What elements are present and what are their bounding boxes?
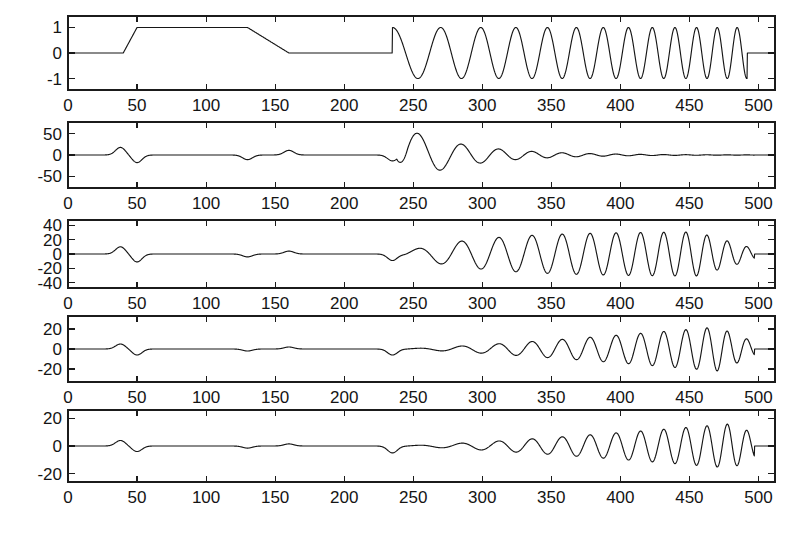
plot-panel: 050100150200250300350400450500500-50 <box>0 118 804 218</box>
y-tick-label: 20 <box>43 409 62 428</box>
x-tick-label: 0 <box>63 194 72 213</box>
panel-canvas-0: 05010015020025030035040045050010-1 <box>0 12 804 120</box>
x-tick-label: 250 <box>399 488 427 507</box>
y-tick-label: 0 <box>53 437 62 456</box>
x-tick-label: 450 <box>675 388 703 407</box>
panel-canvas-3: 050100150200250300350400450500200-20 <box>0 312 804 412</box>
x-tick-label: 300 <box>468 294 496 313</box>
x-tick-label: 500 <box>744 488 772 507</box>
x-tick-label: 100 <box>192 96 220 115</box>
y-tick-label: 1 <box>53 18 62 37</box>
x-tick-label: 0 <box>63 96 72 115</box>
x-tick-label: 250 <box>399 96 427 115</box>
y-tick-label: -1 <box>47 70 62 89</box>
x-tick-label: 450 <box>675 488 703 507</box>
x-tick-label: 350 <box>537 194 565 213</box>
x-tick-label: 500 <box>744 294 772 313</box>
y-tick-label: 50 <box>43 125 62 144</box>
x-tick-label: 0 <box>63 488 72 507</box>
x-tick-label: 300 <box>468 194 496 213</box>
x-tick-label: 400 <box>606 194 634 213</box>
x-tick-label: 350 <box>537 96 565 115</box>
y-tick-label: -40 <box>37 274 62 293</box>
x-tick-label: 500 <box>744 388 772 407</box>
y-tick-label: -20 <box>37 465 62 484</box>
x-tick-label: 500 <box>744 96 772 115</box>
x-tick-label: 200 <box>330 96 358 115</box>
x-tick-label: 100 <box>192 194 220 213</box>
y-tick-label: 0 <box>53 146 62 165</box>
y-tick-label: 0 <box>53 44 62 63</box>
x-tick-label: 150 <box>261 194 289 213</box>
panel-canvas-4: 050100150200250300350400450500200-20 <box>0 406 804 524</box>
x-tick-label: 50 <box>128 96 147 115</box>
x-tick-label: 200 <box>330 194 358 213</box>
signal-trace <box>68 328 775 371</box>
x-tick-label: 0 <box>63 388 72 407</box>
plot-panel: 050100150200250300350400450500200-20 <box>0 406 804 524</box>
x-tick-label: 300 <box>468 388 496 407</box>
signal-trace <box>68 133 775 170</box>
y-tick-label: -20 <box>37 360 62 379</box>
x-tick-label: 400 <box>606 488 634 507</box>
panel-canvas-2: 05010015020025030035040045050040200-20-4… <box>0 216 804 318</box>
x-tick-label: 200 <box>330 488 358 507</box>
x-tick-label: 450 <box>675 194 703 213</box>
x-tick-label: 100 <box>192 294 220 313</box>
x-tick-label: 50 <box>128 488 147 507</box>
x-tick-label: 150 <box>261 488 289 507</box>
plot-panel: 05010015020025030035040045050040200-20-4… <box>0 216 804 318</box>
x-tick-label: 50 <box>128 294 147 313</box>
x-tick-label: 400 <box>606 294 634 313</box>
x-tick-label: 150 <box>261 96 289 115</box>
panel-canvas-1: 050100150200250300350400450500500-50 <box>0 118 804 218</box>
x-tick-label: 400 <box>606 388 634 407</box>
x-tick-label: 450 <box>675 294 703 313</box>
y-tick-label: -50 <box>37 167 62 186</box>
signal-decomposition-figure: 05010015020025030035040045050010-1 05010… <box>0 0 804 533</box>
signal-trace <box>68 27 775 78</box>
x-tick-label: 350 <box>537 488 565 507</box>
x-tick-label: 50 <box>128 388 147 407</box>
x-tick-label: 50 <box>128 194 147 213</box>
y-tick-label: 20 <box>43 320 62 339</box>
x-tick-label: 150 <box>261 294 289 313</box>
x-tick-label: 400 <box>606 96 634 115</box>
plot-panel: 05010015020025030035040045050010-1 <box>0 12 804 120</box>
x-tick-label: 350 <box>537 388 565 407</box>
x-tick-label: 250 <box>399 294 427 313</box>
x-tick-label: 300 <box>468 96 496 115</box>
x-tick-label: 500 <box>744 194 772 213</box>
x-tick-label: 100 <box>192 488 220 507</box>
x-tick-label: 300 <box>468 488 496 507</box>
x-tick-label: 200 <box>330 388 358 407</box>
x-tick-label: 200 <box>330 294 358 313</box>
x-tick-label: 250 <box>399 194 427 213</box>
x-tick-label: 350 <box>537 294 565 313</box>
signal-trace <box>68 424 775 467</box>
x-tick-label: 150 <box>261 388 289 407</box>
x-tick-label: 250 <box>399 388 427 407</box>
y-tick-label: 0 <box>53 340 62 359</box>
x-tick-label: 100 <box>192 388 220 407</box>
x-tick-label: 0 <box>63 294 72 313</box>
plot-panel: 050100150200250300350400450500200-20 <box>0 312 804 412</box>
signal-trace <box>68 232 775 276</box>
x-tick-label: 450 <box>675 96 703 115</box>
